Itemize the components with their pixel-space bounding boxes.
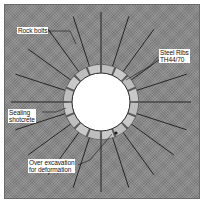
label-sealing-line2: shotcrete [9, 116, 35, 123]
label-over-excavation-line2: for deformation [29, 166, 74, 173]
rock-bolt [135, 113, 186, 130]
rock-bolt [130, 123, 174, 155]
rock-bolt [73, 136, 90, 187]
rock-bolt [28, 123, 72, 155]
label-sealing-line1: Sealing [9, 109, 35, 116]
label-steel-ribs-line2: TH44/70 [160, 56, 189, 63]
rock-bolt [73, 16, 90, 67]
label-rock-bolts-text: Rock bolts [18, 27, 47, 34]
rock-bolt [135, 74, 186, 91]
label-steel-ribs: Steel Ribs TH44/70 [159, 49, 190, 63]
label-over-excavation-line1: Over excavation [29, 159, 74, 166]
rock-bolt [15, 74, 66, 91]
sealing-leader [42, 108, 66, 112]
rock-bolt [122, 131, 154, 175]
over-excavation-marker [114, 131, 117, 134]
rock-bolt [112, 16, 129, 67]
rock-bolt [48, 29, 80, 73]
label-over-excavation: Over excavation for deformation [28, 159, 75, 173]
rock-bolts-leader [48, 31, 76, 44]
label-steel-ribs-line1: Steel Ribs [160, 49, 189, 56]
label-sealing-shotcrete: Sealing shotcrete [8, 109, 36, 123]
label-rock-bolts: Rock bolts [17, 27, 48, 34]
rock-bolt [28, 49, 72, 81]
tunnel-opening [72, 73, 130, 131]
rock-bolt [112, 136, 129, 187]
